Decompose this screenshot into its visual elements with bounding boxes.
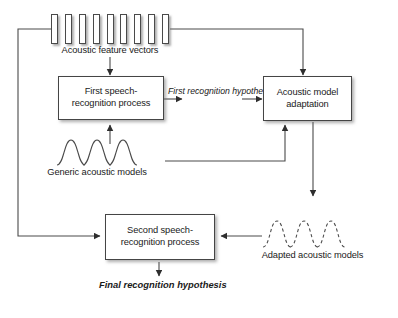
adaptation-line-2: adaptation — [277, 99, 339, 111]
second-speech-recognition-process-box[interactable]: Second speech- recognition process — [105, 214, 215, 260]
first-process-line-1: First speech- — [72, 86, 151, 98]
feature-vector-bar — [120, 14, 127, 44]
generic-acoustic-models-label: Generic acoustic models — [37, 167, 157, 179]
diagram-canvas: Acoustic feature vectors First speech- r… — [0, 0, 398, 318]
edge-features-to-second-process — [18, 29, 100, 236]
acoustic-feature-vectors-glyph — [51, 14, 169, 44]
generic-acoustic-models-curves — [57, 140, 137, 165]
first-hypothesis-line-1: First recognition — [168, 86, 230, 96]
edge-generic-models-to-adaptation — [165, 125, 285, 161]
feature-vector-bar — [51, 14, 58, 44]
second-process-line-2: recognition process — [121, 237, 200, 249]
feature-vector-bar — [134, 14, 141, 44]
edge-features-to-adaptation — [170, 29, 303, 75]
first-process-line-2: recognition process — [72, 98, 151, 110]
feature-vector-bar — [148, 14, 155, 44]
second-process-line-1: Second speech- — [121, 225, 200, 237]
feature-vector-bar — [65, 14, 72, 44]
adapted-acoustic-models-curves — [263, 221, 345, 247]
adaptation-line-1: Acoustic model — [277, 87, 339, 99]
acoustic-feature-vectors-label: Acoustic feature vectors — [51, 45, 169, 57]
final-hypothesis-line-2: hypothesis — [177, 279, 227, 290]
feature-vector-bar — [107, 14, 114, 44]
final-hypothesis-line-1: Final recognition — [99, 279, 175, 290]
first-recognition-hypothesis-label: First recognition hypothesis — [168, 86, 240, 96]
acoustic-model-adaptation-box[interactable]: Acoustic model adaptation — [263, 76, 352, 121]
adapted-acoustic-models-label: Adapted acoustic models — [244, 250, 381, 262]
final-recognition-hypothesis-label: Final recognition hypothesis — [99, 279, 219, 290]
feature-vector-bar — [93, 14, 100, 44]
first-speech-recognition-process-box[interactable]: First speech- recognition process — [58, 76, 164, 120]
feature-vector-bar — [79, 14, 86, 44]
feature-vector-bar — [162, 14, 169, 44]
